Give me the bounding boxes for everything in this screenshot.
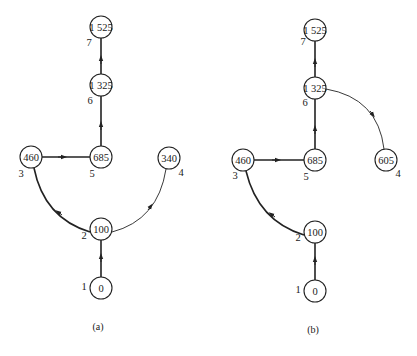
node-b-1: 0 1 — [295, 280, 326, 302]
node-id: 7 — [86, 37, 91, 48]
node-value: 0 — [98, 283, 103, 294]
caption-b: (b) — [307, 324, 319, 336]
node-value: 460 — [23, 152, 39, 163]
node-value: 605 — [378, 155, 394, 166]
node-id: 5 — [303, 171, 308, 182]
node-a-6: 1 325 6 — [87, 74, 112, 106]
node-value: 0 — [312, 286, 317, 297]
node-b-3: 460 3 — [232, 149, 254, 181]
edge-b-2-3 — [246, 171, 304, 235]
caption-a: (a) — [92, 321, 103, 333]
node-a-3: 460 3 — [18, 146, 42, 179]
node-value: 1 525 — [89, 22, 113, 33]
edge-b-6-4 — [326, 89, 384, 149]
node-value: 685 — [307, 155, 323, 166]
node-id: 3 — [18, 168, 23, 179]
edge-a-2-4 — [112, 169, 166, 232]
node-id: 7 — [300, 36, 305, 47]
node-a-1: 0 1 — [81, 277, 112, 299]
diagram-b: 1 525 7 1 325 6 685 5 460 3 605 4 100 2 — [232, 19, 401, 336]
node-id: 2 — [81, 230, 86, 241]
node-value: 1 525 — [303, 25, 327, 36]
node-value: 340 — [161, 153, 177, 164]
node-value: 100 — [307, 227, 323, 238]
node-value: 100 — [93, 224, 109, 235]
node-id: 5 — [89, 168, 94, 179]
node-b-4: 605 4 — [375, 149, 401, 179]
node-id: 2 — [295, 232, 300, 243]
node-id: 6 — [87, 95, 92, 106]
node-id: 1 — [81, 281, 86, 292]
node-id: 4 — [178, 167, 184, 178]
node-b-7: 1 525 7 — [300, 19, 326, 47]
node-a-5: 685 5 — [89, 146, 112, 179]
edge-a-2-3 — [34, 168, 90, 232]
node-value: 1 325 — [303, 83, 327, 94]
node-id: 6 — [302, 97, 307, 108]
node-value: 685 — [93, 152, 109, 163]
node-b-2: 100 2 — [295, 221, 326, 243]
node-id: 4 — [395, 168, 401, 179]
node-id: 3 — [232, 170, 237, 181]
node-b-5: 685 5 — [303, 149, 326, 182]
node-a-4: 340 4 — [158, 147, 184, 178]
diagram-canvas: 1 525 7 1 325 6 685 5 460 3 340 4 100 2 — [0, 0, 417, 356]
node-id: 1 — [295, 284, 300, 295]
node-value: 460 — [235, 155, 251, 166]
diagram-a: 1 525 7 1 325 6 685 5 460 3 340 4 100 2 — [18, 16, 184, 333]
node-a-2: 100 2 — [81, 218, 112, 241]
node-value: 1 325 — [89, 80, 113, 91]
node-a-7: 1 525 7 — [86, 16, 112, 48]
